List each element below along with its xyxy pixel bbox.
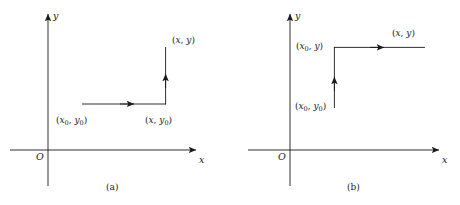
panel-b: x y O (x0, y0) (x0, y) (x, y) (b) <box>230 0 460 205</box>
point-label-start: (x0, y0) <box>56 116 87 125</box>
point-label-end: (x, y) <box>172 36 195 45</box>
y-axis-label: y <box>53 11 58 21</box>
point-label-corner: (x, y0) <box>145 116 172 125</box>
point-label-end: (x, y) <box>392 29 415 38</box>
x-axis-label: x <box>442 155 447 165</box>
panel-caption-b: (b) <box>347 183 360 192</box>
origin-label: O <box>36 152 44 162</box>
panel-caption-a: (a) <box>106 183 118 192</box>
math-figure: x y O (x0, y0) (x, y0) (x, y) (a) x <box>0 0 460 205</box>
x-axis-label: x <box>199 155 204 165</box>
origin-label: O <box>278 152 286 162</box>
point-label-corner: (x0, y) <box>296 42 323 51</box>
panel-a: x y O (x0, y0) (x, y0) (x, y) (a) <box>0 0 230 205</box>
y-axis-label: y <box>295 11 300 21</box>
panel-b-graphic <box>230 0 460 205</box>
panel-a-graphic <box>0 0 230 205</box>
point-label-start: (x0, y0) <box>295 102 326 111</box>
